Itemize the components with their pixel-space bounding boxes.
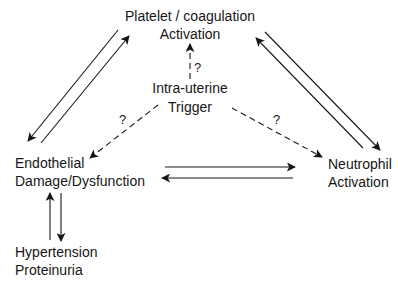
node-endothelial-damage: Endothelial Damage/Dysfunction <box>15 155 145 189</box>
node-hypertension-proteinuria: Hypertension Proteinuria <box>15 244 98 278</box>
arrow-neutrophil-to-platelet <box>256 38 363 148</box>
hypertension-label-line2: Proteinuria <box>15 262 83 278</box>
question-mark-trigger-neutrophil: ? <box>273 112 280 127</box>
endothelial-label-line1: Endothelial <box>15 155 84 171</box>
neutrophil-label-line2: Activation <box>328 174 389 190</box>
pathogenesis-diagram: Platelet / coagulation Activation Intra-… <box>0 0 398 287</box>
node-platelet-activation: Platelet / coagulation Activation <box>125 8 255 42</box>
question-mark-trigger-endothelial: ? <box>119 112 126 127</box>
arrow-platelet-to-endothelial <box>28 30 118 141</box>
endothelial-label-line2: Damage/Dysfunction <box>15 173 145 189</box>
question-mark-trigger-platelet: ? <box>194 60 201 75</box>
arrow-platelet-to-neutrophil <box>265 32 380 150</box>
trigger-label-line2: Trigger <box>168 99 212 115</box>
node-intrauterine-trigger: Intra-uterine Trigger <box>152 80 228 115</box>
arrow-endothelial-to-platelet <box>41 36 129 143</box>
trigger-label-line1: Intra-uterine <box>152 80 228 96</box>
neutrophil-label-line1: Neutrophil <box>328 156 392 172</box>
hypertension-label-line1: Hypertension <box>15 244 98 260</box>
platelet-label-line1: Platelet / coagulation <box>125 8 255 24</box>
node-neutrophil-activation: Neutrophil Activation <box>328 156 392 190</box>
platelet-label-line2: Activation <box>160 26 221 42</box>
